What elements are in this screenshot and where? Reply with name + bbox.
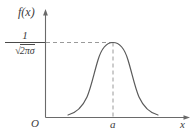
fraction-denominator: √2πσ (5, 43, 45, 57)
plot-canvas (0, 0, 194, 139)
origin-label: O (31, 118, 39, 129)
mean-tick-label: a (110, 119, 116, 130)
radicand-text: 2πσ (20, 44, 35, 56)
y-axis-label: f(x) (18, 6, 35, 18)
x-axis (46, 115, 191, 120)
y-axis (43, 9, 48, 118)
fraction-numerator: 1 (5, 29, 45, 42)
peak-value-label: 1 √2πσ (5, 29, 45, 57)
normal-distribution-figure: f(x) 1 √2πσ O a x (0, 0, 194, 139)
x-axis-label: x (180, 119, 185, 130)
y-axis-arrow-icon (43, 9, 48, 16)
